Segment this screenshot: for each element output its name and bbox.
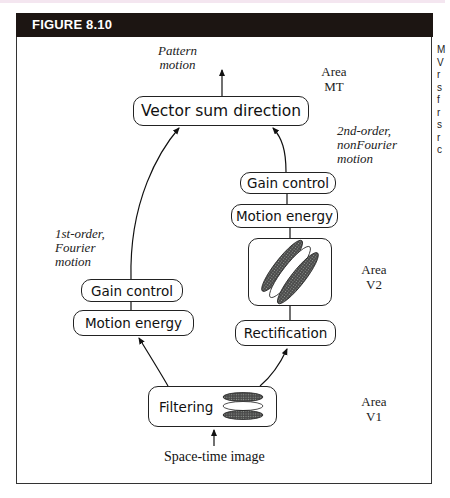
right-gain-control-box: Gain control: [240, 172, 336, 194]
label-line: Area: [314, 64, 354, 79]
label-line: Fourier: [55, 241, 105, 255]
rectification-box: Rectification: [235, 320, 336, 346]
label-line: V2: [354, 277, 394, 292]
vector-sum-box: Vector sum direction: [133, 96, 309, 126]
label-line: 2nd-order,: [337, 124, 397, 138]
label-line: Pattern: [158, 44, 197, 58]
area-v1-label: Area V1: [354, 394, 394, 424]
left-gain-control-box: Gain control: [81, 279, 183, 302]
label-line: V1: [354, 409, 394, 424]
label-line: motion: [55, 255, 105, 269]
area-mt-label: Area MT: [314, 64, 354, 94]
pattern-motion-label: Pattern motion: [158, 44, 197, 72]
label-line: 1st-order,: [55, 227, 105, 241]
space-time-image-label: Space-time image: [164, 449, 265, 465]
label-line: nonFourier: [337, 138, 397, 152]
label-line: motion: [158, 58, 197, 72]
second-order-label: 2nd-order, nonFourier motion: [337, 124, 397, 166]
left-motion-energy-box: Motion energy: [73, 310, 194, 336]
v2-filter-box: [248, 238, 332, 306]
left-gain-control-label: Gain control: [91, 283, 173, 299]
area-v2-label: Area V2: [354, 262, 394, 292]
vector-sum-label: Vector sum direction: [141, 102, 301, 120]
label-line: MT: [314, 79, 354, 94]
right-motion-energy-label: Motion energy: [236, 208, 333, 224]
first-order-label: 1st-order, Fourier motion: [55, 227, 105, 269]
label-line: Area: [354, 394, 394, 409]
rectification-label: Rectification: [244, 325, 328, 341]
filtering-box: Filtering: [148, 386, 277, 427]
right-gain-control-label: Gain control: [247, 175, 329, 191]
right-motion-energy-box: Motion energy: [231, 204, 338, 228]
filtering-label: Filtering: [159, 399, 213, 415]
left-motion-energy-label: Motion energy: [85, 315, 182, 331]
label-line: Area: [354, 262, 394, 277]
label-line: motion: [337, 152, 397, 166]
